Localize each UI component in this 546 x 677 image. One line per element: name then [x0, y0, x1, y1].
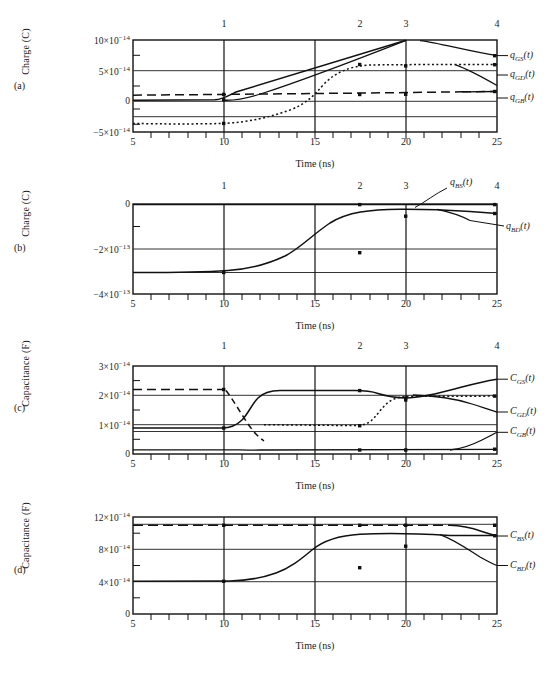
panel-a: (a) Charge (C) 10×10−14 5×10−14 0 −5×10−…	[0, 18, 546, 178]
panel-b-xtick-4: 25	[484, 298, 510, 309]
panel-c-plot	[0, 340, 546, 500]
panel-b-xtick-3: 20	[393, 298, 419, 309]
panel-b-xtick-0: 5	[120, 298, 146, 309]
panel-c-data-markers	[222, 388, 496, 452]
panel-c-curve-cgb	[133, 449, 497, 450]
panel-c-branch-cgd	[413, 395, 497, 412]
panel-c-xtick-4: 25	[484, 458, 510, 469]
panel-a-xtick-0: 5	[120, 136, 146, 147]
panel-a-label-qgd: qGD(t)	[510, 68, 535, 82]
panel-d-xtick-1: 10	[211, 618, 237, 629]
panel-c-branch-cgb	[450, 432, 497, 450]
panel-b: (b) Charge (C) 0 −2×10−13 −4×10−13 1 2 3…	[0, 180, 546, 340]
panel-b-xtick-1: 10	[211, 298, 237, 309]
panel-a-label-qgs: qGS(t)	[510, 49, 533, 63]
panel-d-branch-cbs	[450, 525, 497, 536]
panel-d-label-cbs: CBS(t)	[510, 529, 534, 543]
panel-d-branch-cbd	[440, 535, 497, 566]
panel-d-label-cbd: CBD(t)	[510, 559, 535, 573]
panel-a-xtick-2: 15	[302, 136, 328, 147]
panel-d-xtick-4: 25	[484, 618, 510, 629]
panel-b-label-qbs: qBS(t)	[450, 176, 472, 190]
panel-d-xtick-3: 20	[393, 618, 419, 629]
panel-a-label-qgb: qGB(t)	[510, 91, 534, 105]
panel-d-xtick-0: 5	[120, 618, 146, 629]
panel-c-xtick-3: 20	[393, 458, 419, 469]
panel-d-xlabel: Time (ns)	[133, 640, 497, 651]
panel-a-branch-qgs	[420, 41, 497, 56]
panel-c-xtick-2: 15	[302, 458, 328, 469]
panel-d-xtick-2: 15	[302, 618, 328, 629]
panel-c-xtick-0: 5	[120, 458, 146, 469]
panel-c-label-cgd: CGD(t)	[510, 405, 536, 419]
panel-c-label-cgs: CGS(t)	[510, 372, 535, 386]
panel-c-label-cgb: CGB(t)	[510, 425, 535, 439]
panel-c-xtick-1: 10	[211, 458, 237, 469]
panel-b-label-qbd: qBD(t)	[506, 220, 530, 234]
panel-d-data-markers	[222, 524, 496, 583]
panel-a-plot	[0, 18, 546, 178]
panel-a-branch-qgb	[455, 65, 497, 86]
panel-c: (c) Capacitance (F) 3×10−14 2×10−14 1×10…	[0, 340, 546, 500]
panel-b-xlabel: Time (ns)	[133, 320, 497, 331]
panel-a-xtick-1: 10	[211, 136, 237, 147]
panel-b-plot	[0, 180, 546, 340]
panel-c-xlabel: Time (ns)	[133, 480, 497, 491]
panel-a-curve-qgd-dashed	[133, 92, 462, 95]
panel-a-xlabel: Time (ns)	[133, 158, 497, 169]
panel-a-xtick-3: 20	[393, 136, 419, 147]
panel-d-plot	[0, 502, 546, 662]
panel-b-xtick-2: 15	[302, 298, 328, 309]
panel-a-xtick-4: 25	[484, 136, 510, 147]
figure-container: (a) Charge (C) 10×10−14 5×10−14 0 −5×10−…	[0, 0, 546, 677]
panel-d: (d) Capacitance (F) 12×10−14 8×10−14 4×1…	[0, 502, 546, 662]
